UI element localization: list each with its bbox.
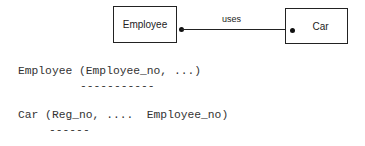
- relation-car: Car (Reg_no, .... Employee_no): [18, 109, 228, 121]
- entity-employee: Employee: [113, 6, 177, 43]
- relation-car-key-underline: ------: [49, 124, 90, 136]
- relation-employee: Employee (Employee_no, ...): [18, 65, 201, 77]
- relationship-end-dot-car: [290, 28, 295, 33]
- relationship-line-uses: [181, 29, 285, 30]
- relation-employee-key-underline: -----------: [80, 80, 155, 92]
- entity-employee-label: Employee: [123, 19, 167, 30]
- entity-car-label: Car: [312, 21, 328, 32]
- entity-car: Car: [285, 8, 348, 44]
- relationship-label: uses: [222, 14, 241, 24]
